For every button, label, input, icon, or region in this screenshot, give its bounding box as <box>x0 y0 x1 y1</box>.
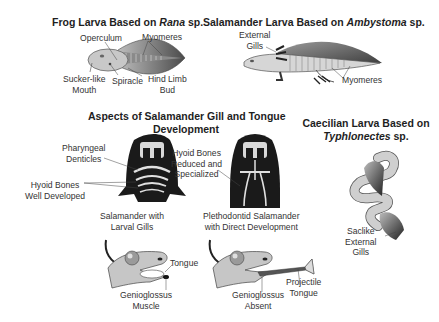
salamander-panel-title: Salamander Larva Based on Ambystoma sp. <box>203 16 425 28</box>
label-line: Denticles <box>62 154 105 165</box>
label-line: Genioglossus <box>120 290 172 301</box>
label-line: Plethodontid Salamander <box>203 211 300 222</box>
frog-panel-title: Frog Larva Based on Rana sp. <box>52 16 203 28</box>
title-text: Salamander Larva Based on <box>203 16 347 28</box>
head-larval-illustration <box>108 251 172 290</box>
skull-plethodontid-illustration <box>218 134 280 208</box>
label-operculum: Operculum <box>80 33 122 44</box>
title-text: Frog Larva Based on <box>52 16 159 28</box>
label-larval-gills: Salamander with Larval Gills <box>100 211 164 232</box>
title-line-1: Aspects of Salamander Gill and Tongue <box>88 110 284 123</box>
label-line: Pharyngeal <box>62 143 105 154</box>
label-saclike-gills: Saclike External Gills <box>345 226 377 258</box>
label-plethodontid: Plethodontid Salamander with Direct Deve… <box>203 211 300 232</box>
label-line: Salamander with <box>100 211 164 222</box>
label-line: Specialized <box>171 169 222 180</box>
label-tongue: Tongue <box>170 258 198 269</box>
label-line: Absent <box>232 301 284 312</box>
label-line: Bud <box>148 85 187 96</box>
label-line: Muscle <box>120 301 172 312</box>
label-line: Saclike <box>345 226 377 237</box>
label-line: External <box>345 237 377 248</box>
label-salamander-myomeres: Myomeres <box>342 75 382 86</box>
genus-text: Typhlonectes <box>323 130 390 142</box>
label-pharyngeal-denticles: Pharyngeal Denticles <box>62 143 105 164</box>
label-line: External <box>239 30 271 41</box>
label-line: Hind Limb <box>148 74 187 85</box>
label-external-gills: External Gills <box>239 30 271 51</box>
label-line: Mouth <box>63 85 106 96</box>
label-line: Hyoid Bones <box>171 148 222 159</box>
label-line: Well Developed <box>25 191 85 202</box>
label-hind-limb-bud: Hind Limb Bud <box>148 74 187 95</box>
caecilian-panel-title: Caecilian Larva Based on Typhlonectes sp… <box>298 117 434 143</box>
label-line: Larval Gills <box>100 222 164 233</box>
label-genioglossus-absent: Genioglossus Absent <box>232 290 284 311</box>
genus-text: Ambystoma <box>347 16 407 28</box>
title-line-1: Caecilian Larva Based on <box>298 117 434 130</box>
genus-text: Rana <box>159 16 185 28</box>
label-line: Tongue <box>286 288 321 299</box>
frog-tadpole-illustration <box>88 39 185 76</box>
label-line: Gills <box>239 41 271 52</box>
label-line: Reduced and <box>171 159 222 170</box>
label-spiracle: Spiracle <box>112 76 143 87</box>
label-projectile-tongue: Projectile Tongue <box>286 277 321 298</box>
label-genioglossus-muscle: Genioglossus Muscle <box>120 290 172 311</box>
label-line: Projectile <box>286 277 321 288</box>
title-suffix: sp. <box>407 16 425 28</box>
title-suffix: sp. <box>391 130 409 142</box>
label-hyoid-well-developed: Hyoid Bones Well Developed <box>25 180 85 201</box>
gill-tongue-panel-title: Aspects of Salamander Gill and Tongue De… <box>88 110 284 136</box>
label-line: Sucker-like <box>63 74 106 85</box>
label-line: Gills <box>345 247 377 258</box>
label-sucker-mouth: Sucker-like Mouth <box>63 74 106 95</box>
label-line: with Direct Development <box>203 222 300 233</box>
title-line-2: Development <box>88 123 284 136</box>
label-line: Genioglossus <box>232 290 284 301</box>
title-suffix: sp. <box>185 16 203 28</box>
label-frog-myomeres: Myomeres <box>142 32 182 43</box>
label-hyoid-reduced: Hyoid Bones Reduced and Specialized <box>171 148 222 180</box>
label-line: Hyoid Bones <box>25 180 85 191</box>
